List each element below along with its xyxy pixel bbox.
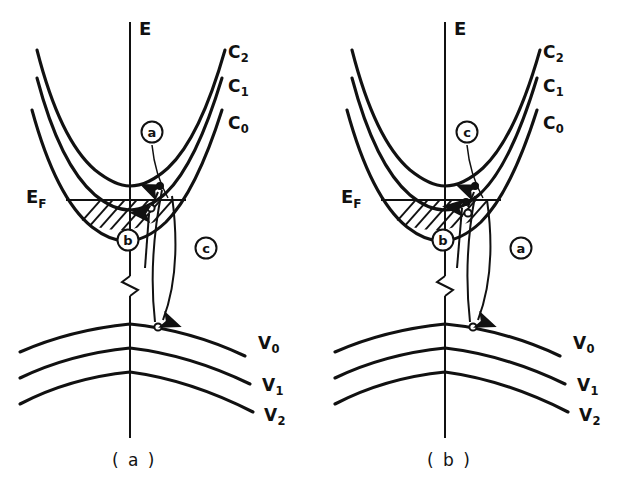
transition-label-a: a [142, 122, 163, 143]
band-label-c1-sub: 1 [241, 85, 249, 99]
band-label-v1-main: V [262, 375, 275, 395]
transition-arrow-c [163, 196, 175, 320]
fermi-label-main: E [26, 186, 38, 207]
band-label-c0: C0 [228, 113, 249, 136]
band-label-c0-main: C [543, 113, 556, 133]
band-label-v1: V1 [262, 375, 284, 398]
band-label-c2-main: C [228, 42, 241, 62]
panel-b: c b a E EF C2 C1 C0 V0 [315, 0, 630, 489]
band-label-v1-main: V [577, 375, 590, 395]
band-label-c1-sub: 1 [556, 85, 564, 99]
fermi-level-label: EF [341, 186, 362, 211]
transition-label-c: c [457, 122, 478, 143]
transition-label-c-text: c [463, 125, 471, 140]
fermi-label-sub: F [38, 197, 46, 211]
band-label-v1: V1 [577, 375, 599, 398]
band-label-v1-sub: 1 [590, 384, 598, 398]
intermediate-state-dot [464, 209, 471, 216]
fermi-level-label: EF [26, 186, 47, 211]
axis-break-symbol [122, 276, 138, 296]
band-label-c2-sub: 2 [241, 51, 249, 65]
axis-break-symbol [437, 276, 453, 296]
band-label-c1-main: C [228, 76, 241, 96]
valence-hole-dot [469, 323, 476, 330]
transition-label-c-text: c [202, 241, 210, 256]
transition-label-b: b [433, 230, 454, 251]
band-label-c2: C2 [228, 42, 249, 65]
panel-b-caption: ( b ) [427, 450, 472, 470]
valence-band-v0 [335, 324, 560, 356]
transition-label-a: a [511, 238, 532, 259]
band-label-v0-sub: 0 [271, 342, 279, 356]
transition-arrow-b [145, 214, 149, 268]
intermediate-state-dot [147, 204, 154, 211]
band-label-c2-sub: 2 [556, 51, 564, 65]
transition-label-b-text: b [123, 233, 132, 248]
band-label-v0-sub: 0 [586, 342, 594, 356]
band-label-v2-sub: 2 [592, 414, 600, 428]
band-structure-figure: a b c E EF C2 C1 C0 [0, 0, 630, 489]
band-label-c0-main: C [228, 113, 241, 133]
energy-axis-label: E [139, 18, 151, 39]
panel-a: a b c E EF C2 C1 C0 [0, 0, 315, 489]
fermi-label-sub: F [353, 197, 361, 211]
band-label-v2-main: V [264, 405, 277, 425]
band-label-c2: C2 [543, 42, 564, 65]
band-label-c0-sub: 0 [241, 122, 249, 136]
band-label-v2-sub: 2 [277, 414, 285, 428]
fermi-label-main: E [341, 186, 353, 207]
band-label-c1-main: C [543, 76, 556, 96]
valence-band-v2 [20, 372, 253, 412]
band-label-c1: C1 [228, 76, 249, 99]
transition-label-b-text: b [438, 233, 447, 248]
valence-band-v0 [20, 324, 245, 356]
transition-label-c: c [196, 238, 217, 259]
transition-label-a-text: a [148, 125, 157, 140]
band-label-v2: V2 [264, 405, 286, 428]
band-label-v2: V2 [579, 405, 601, 428]
band-label-v0: V0 [573, 333, 595, 356]
band-label-v2-main: V [579, 405, 592, 425]
band-label-c0-sub: 0 [556, 122, 564, 136]
panel-a-caption: ( a ) [112, 450, 157, 470]
band-label-c0: C0 [543, 113, 564, 136]
valence-band-v1 [20, 348, 250, 384]
band-label-v0-main: V [258, 333, 271, 353]
valence-hole-dot [154, 323, 161, 330]
valence-band-v1 [335, 348, 565, 384]
band-label-v1-sub: 1 [275, 384, 283, 398]
band-label-c1: C1 [543, 76, 564, 99]
valence-band-v2 [335, 372, 568, 412]
transition-label-a-text: a [517, 241, 526, 256]
band-label-v0-main: V [573, 333, 586, 353]
band-label-c2-main: C [543, 42, 556, 62]
transition-label-b: b [118, 230, 139, 251]
band-label-v0: V0 [258, 333, 280, 356]
energy-axis-label: E [454, 18, 466, 39]
